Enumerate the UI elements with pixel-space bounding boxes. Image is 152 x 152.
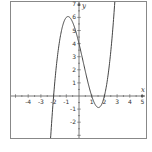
x-tick-label: 3 — [115, 98, 119, 105]
y-tick-label: -2 — [70, 118, 76, 125]
y-tick-label: 7 — [72, 0, 76, 7]
y-tick-label: -1 — [70, 105, 76, 112]
x-tick-label: 5 — [141, 98, 145, 105]
y-tick-label: 1 — [72, 79, 76, 86]
y-tick-label: 2 — [72, 66, 76, 73]
x-axis-label: x — [141, 86, 145, 94]
x-tick-label: -3 — [38, 98, 44, 105]
y-tick-label: 3 — [72, 53, 76, 60]
x-tick-label: -1 — [63, 98, 69, 105]
cubic-function-chart: -4-3-2-112345-2-11234567 x y — [0, 0, 152, 152]
y-tick-label: 6 — [72, 13, 76, 20]
y-tick-label: 4 — [72, 40, 76, 47]
x-tick-label: -4 — [25, 98, 31, 105]
x-tick-label: 4 — [128, 98, 132, 105]
